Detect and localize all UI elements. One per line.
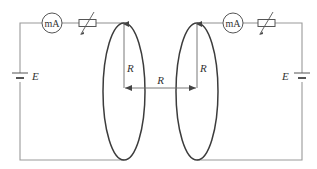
right-milliammeter: mA (223, 13, 243, 33)
right-meter-label: mA (226, 18, 242, 29)
left-circuit: mA E R (12, 12, 145, 160)
left-rheostat (79, 12, 96, 35)
left-radius-label: R (126, 62, 134, 74)
right-radius-label: R (199, 62, 207, 74)
separation-dimension: R (125, 74, 196, 88)
left-battery-label: E (31, 70, 39, 82)
left-battery: E (12, 70, 39, 82)
right-bottom-wire (197, 82, 302, 160)
left-milliammeter: mA (42, 13, 62, 33)
helmholtz-coil-diagram: mA E R mA (0, 0, 317, 169)
right-circuit: mA E R (176, 12, 310, 160)
right-battery-label: E (281, 70, 289, 82)
right-battery: E (281, 70, 310, 82)
left-meter-label: mA (45, 18, 61, 29)
right-rheostat (258, 12, 275, 35)
separation-label: R (156, 74, 164, 86)
left-top-wire (20, 23, 42, 73)
right-top-wire (275, 23, 302, 73)
left-bottom-wire (20, 82, 124, 160)
